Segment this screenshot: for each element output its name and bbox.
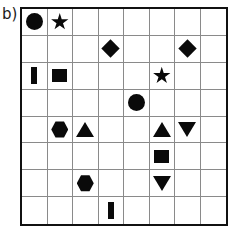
grid-cell: [124, 9, 150, 36]
grid-cell: [201, 90, 227, 117]
grid-cell: [99, 90, 125, 117]
hexagon-icon: [51, 121, 68, 138]
grid-cell: [99, 63, 125, 90]
grid-cell: [48, 117, 74, 144]
grid-cell: [124, 36, 150, 63]
grid-cell: [175, 63, 201, 90]
grid-cell: [73, 117, 99, 144]
grid-cell: [99, 143, 125, 170]
circle-icon: [26, 13, 43, 30]
grid-cell: [124, 143, 150, 170]
grid-cell: [73, 9, 99, 36]
grid-cell: [48, 197, 74, 224]
grid-cell: [73, 143, 99, 170]
grid-cell: [175, 197, 201, 224]
grid-cell: [201, 143, 227, 170]
square-icon: [52, 69, 67, 82]
grid-cell: [99, 197, 125, 224]
grid-cell: [150, 9, 176, 36]
grid-cell: [150, 63, 176, 90]
grid-cell: [73, 36, 99, 63]
triangle-down-icon: [153, 176, 171, 191]
grid-cell: [150, 117, 176, 144]
triangle-up-icon: [76, 122, 94, 137]
grid-cell: [201, 197, 227, 224]
bar-icon: [31, 67, 37, 84]
grid-cell: [175, 90, 201, 117]
grid-cell: [201, 117, 227, 144]
grid-cell: [73, 90, 99, 117]
grid-cell: [22, 117, 48, 144]
grid-cell: [150, 170, 176, 197]
grid-cell: [99, 36, 125, 63]
grid-cell: [175, 36, 201, 63]
grid-cell: [175, 9, 201, 36]
grid-cell: [201, 36, 227, 63]
grid-cell: [73, 170, 99, 197]
figure-panel: b): [0, 0, 239, 239]
grid-cell: [22, 9, 48, 36]
grid-cell: [48, 9, 74, 36]
grid-cell: [175, 143, 201, 170]
panel-label: b): [2, 6, 17, 22]
grid-cell: [201, 170, 227, 197]
grid-cell: [175, 170, 201, 197]
grid-cell: [99, 170, 125, 197]
grid-cell: [201, 63, 227, 90]
diamond-icon: [178, 40, 196, 58]
grid-cell: [150, 90, 176, 117]
square-icon: [154, 150, 169, 163]
grid-cell: [124, 197, 150, 224]
star-icon: [153, 67, 171, 85]
grid-cell: [201, 9, 227, 36]
triangle-up-icon: [153, 122, 171, 137]
triangle-down-icon: [178, 122, 196, 137]
grid-cell: [22, 197, 48, 224]
grid-cell: [124, 117, 150, 144]
circle-icon: [128, 94, 145, 111]
grid-cell: [48, 170, 74, 197]
grid-cell: [73, 197, 99, 224]
grid-cell: [48, 143, 74, 170]
grid-cell: [124, 170, 150, 197]
grid-cell: [22, 36, 48, 63]
grid-cell: [22, 170, 48, 197]
grid-cell: [150, 143, 176, 170]
grid-cell: [22, 90, 48, 117]
diamond-icon: [102, 40, 120, 58]
grid-cell: [48, 90, 74, 117]
shape-grid: [20, 7, 228, 226]
grid-cell: [150, 197, 176, 224]
bar-icon: [108, 202, 114, 219]
star-icon: [51, 13, 69, 31]
grid-cell: [22, 63, 48, 90]
grid-cell: [124, 63, 150, 90]
grid-cell: [150, 36, 176, 63]
grid-cell: [48, 36, 74, 63]
grid-cell: [175, 117, 201, 144]
grid-cell: [48, 63, 74, 90]
grid-cell: [99, 117, 125, 144]
hexagon-icon: [77, 175, 94, 192]
grid-cell: [22, 143, 48, 170]
grid-cell-container: [22, 9, 226, 224]
grid-cell: [99, 9, 125, 36]
grid-cell: [124, 90, 150, 117]
grid-cell: [73, 63, 99, 90]
